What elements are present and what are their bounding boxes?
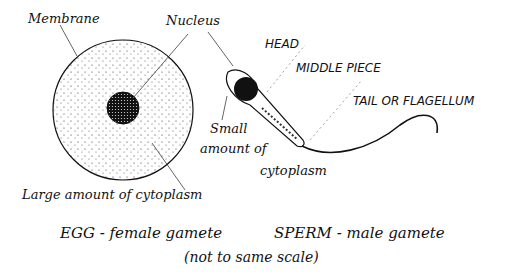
egg-cytoplasm-label: Large amount of cytoplasm [22, 188, 202, 201]
egg-caption: EGG - female gamete [60, 226, 222, 241]
sperm-cytoplasm-line2: amount of [200, 142, 267, 155]
sperm-caption: SPERM - male gamete [274, 226, 445, 241]
nucleus-label: Nucleus [166, 14, 220, 27]
membrane-label: Membrane [28, 12, 100, 25]
sperm-cytoplasm-line3: cytoplasm [260, 164, 327, 177]
middle-piece-label: MIDDLE PIECE [296, 62, 381, 74]
scale-note: (not to same scale) [184, 250, 319, 264]
tail-label: TAIL OR FLAGELLUM [353, 95, 474, 107]
egg-cell [53, 25, 193, 190]
sperm-cytoplasm-line1: Small [210, 122, 247, 135]
head-label: HEAD [265, 38, 299, 50]
